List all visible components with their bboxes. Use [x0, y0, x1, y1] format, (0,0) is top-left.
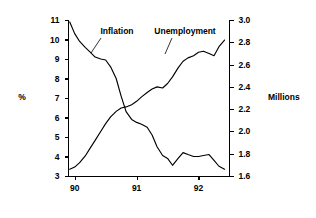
right-tick-label: 2.8 [239, 37, 251, 47]
left-tick-label: 5 [55, 132, 60, 142]
right-tick-label: 1.8 [239, 149, 251, 159]
left-axis-title: % [18, 92, 26, 102]
right-axis-title: Millions [268, 92, 300, 102]
left-tick-label: 8 [55, 74, 60, 84]
right-tick-label: 2.4 [239, 82, 251, 92]
left-tick-label: 7 [55, 93, 60, 103]
left-tick-label: 9 [55, 54, 60, 64]
right-tick-label: 1.6 [239, 171, 251, 181]
x-tick-label: 90 [70, 183, 80, 193]
left-tick-label: 10 [50, 35, 60, 45]
unemployment-label: Unemployment [154, 26, 216, 36]
left-tick-label: 11 [51, 15, 60, 25]
chart-container: 34567891011 1.61.82.02.22.42.62.83.0 909… [0, 0, 316, 218]
x-tick-label: 91 [132, 183, 142, 193]
x-tick-label: 92 [194, 183, 204, 193]
inflation-label: Inflation [100, 26, 133, 36]
left-tick-label: 3 [55, 171, 60, 181]
right-tick-label: 2.2 [239, 104, 251, 114]
right-tick-label: 3.0 [239, 15, 251, 25]
left-tick-label: 6 [55, 113, 60, 123]
left-tick-label: 4 [55, 152, 60, 162]
right-tick-label: 2.6 [239, 60, 251, 70]
inflation-unemployment-line-chart: 34567891011 1.61.82.02.22.42.62.83.0 909… [0, 0, 316, 218]
right-tick-label: 2.0 [239, 126, 251, 136]
